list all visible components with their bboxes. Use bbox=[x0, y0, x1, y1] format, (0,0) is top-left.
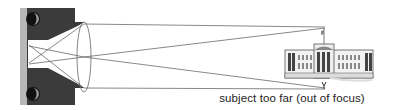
diagram-caption: subject too far (out of focus) bbox=[212, 92, 372, 104]
bottom-spool-icon bbox=[26, 87, 40, 101]
camera-body bbox=[20, 8, 84, 105]
film-plane bbox=[20, 8, 27, 105]
building-subject bbox=[285, 28, 373, 89]
top-spool-icon bbox=[26, 12, 40, 26]
